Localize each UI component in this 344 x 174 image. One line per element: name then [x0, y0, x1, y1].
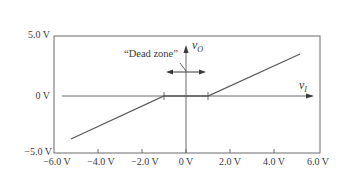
- vi-axis-arrow-icon: [306, 94, 314, 99]
- vo-subscript: O: [197, 45, 203, 54]
- arrow-right-icon: [199, 70, 206, 75]
- dead-zone-leader: [180, 63, 186, 71]
- x-tick-label-2: −2.0 V: [125, 156, 165, 167]
- x-tick-label-5: 4.0 V: [254, 156, 294, 167]
- x-tick-label-6: 6.0 V: [298, 156, 338, 167]
- vi-axis-label: vI: [299, 78, 307, 94]
- y-tick-label-top: 5.0 V: [6, 29, 50, 40]
- y-tick-label-zero: 0 V: [6, 90, 50, 101]
- arrow-left-icon: [166, 70, 173, 75]
- vi-subscript: I: [304, 85, 307, 94]
- vo-axis-arrow-icon: [184, 45, 189, 53]
- x-tick-label-3: 0 V: [166, 156, 206, 167]
- plot-frame: [54, 36, 320, 153]
- x-tick-label-0: −6.0 V: [37, 156, 77, 167]
- x-tick-label-1: −4.0 V: [81, 156, 121, 167]
- x-tick-label-4: 2.0 V: [210, 156, 250, 167]
- dead-zone-label: “Dead zone”: [124, 48, 178, 59]
- vo-axis-label: vO: [192, 38, 203, 54]
